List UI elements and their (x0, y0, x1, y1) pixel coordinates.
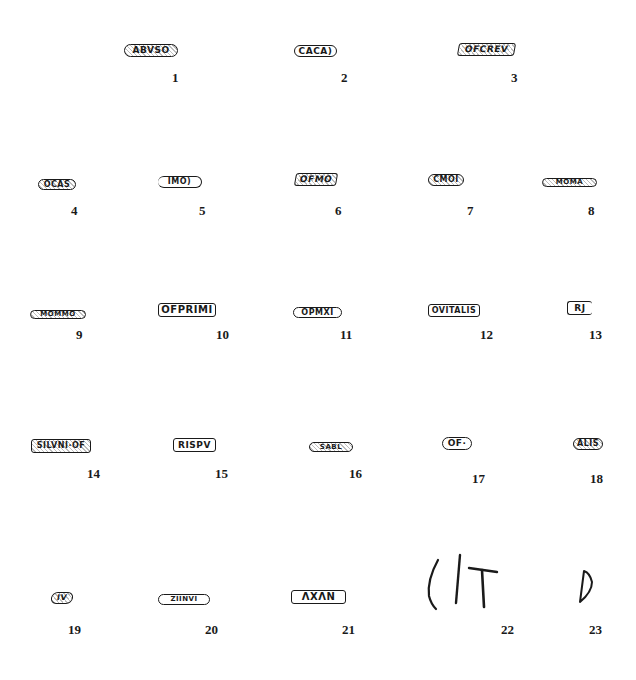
stamp-number-14: 14 (87, 466, 100, 482)
stamp-18: ALIS (573, 438, 603, 450)
stamp-number-9: 9 (76, 327, 83, 343)
stamp-21: ΛXΛN (291, 590, 346, 604)
stamp-number-20: 20 (205, 622, 218, 638)
stamp-3: OFCREV (457, 43, 516, 56)
stamp-number-23: 23 (589, 622, 602, 638)
stamp-5: IMO) (158, 176, 202, 188)
stamp-17: OF· (442, 437, 472, 450)
stamp-6: OFMO (294, 173, 338, 186)
stamp-number-4: 4 (71, 203, 78, 219)
stamp-number-16: 16 (349, 466, 362, 482)
stamp-7: CMOI (428, 174, 464, 186)
stamp-13: RJ (567, 301, 592, 315)
stamp-number-2: 2 (341, 70, 348, 86)
stamp-number-7: 7 (467, 203, 474, 219)
stamp-14: SILVNI·OF (31, 439, 91, 453)
stamp-4: OCAS (38, 179, 76, 190)
stamp-number-19: 19 (68, 622, 81, 638)
stamp-number-10: 10 (216, 327, 229, 343)
stamp-number-6: 6 (335, 203, 342, 219)
stamp-12: OVITALIS (428, 304, 480, 317)
stamp-9: MOMMO (30, 310, 86, 319)
stamp-11: OPMXI (293, 307, 342, 318)
stamp-number-15: 15 (215, 466, 228, 482)
stamp-number-11: 11 (340, 327, 352, 343)
stamp-number-8: 8 (588, 203, 595, 219)
stamp-number-13: 13 (589, 327, 602, 343)
stamp-plate: ABVSO 1 CACA) 2 OFCREV 3 OCAS 4 IMO) 5 O… (0, 0, 636, 680)
stamp-10: OFPRIMI (158, 303, 216, 317)
stamp-2: CACA) (294, 45, 337, 57)
stamp-number-17: 17 (472, 471, 485, 487)
graffito-23 (576, 568, 600, 608)
stamp-number-21: 21 (342, 622, 355, 638)
stamp-1: ABVSO (124, 44, 178, 57)
stamp-19: IV (50, 592, 74, 604)
stamp-number-3: 3 (511, 70, 518, 86)
stamp-number-12: 12 (480, 327, 493, 343)
stamp-15: RISPV (173, 438, 216, 452)
stamp-number-5: 5 (199, 203, 206, 219)
stamp-20: ZIINVI (158, 594, 210, 605)
stamp-8: MOMA (542, 178, 597, 187)
stamp-number-1: 1 (172, 70, 179, 86)
graffito-22 (425, 550, 515, 620)
stamp-number-18: 18 (590, 471, 603, 487)
stamp-number-22: 22 (501, 622, 514, 638)
stamp-16: SABL (309, 442, 353, 452)
